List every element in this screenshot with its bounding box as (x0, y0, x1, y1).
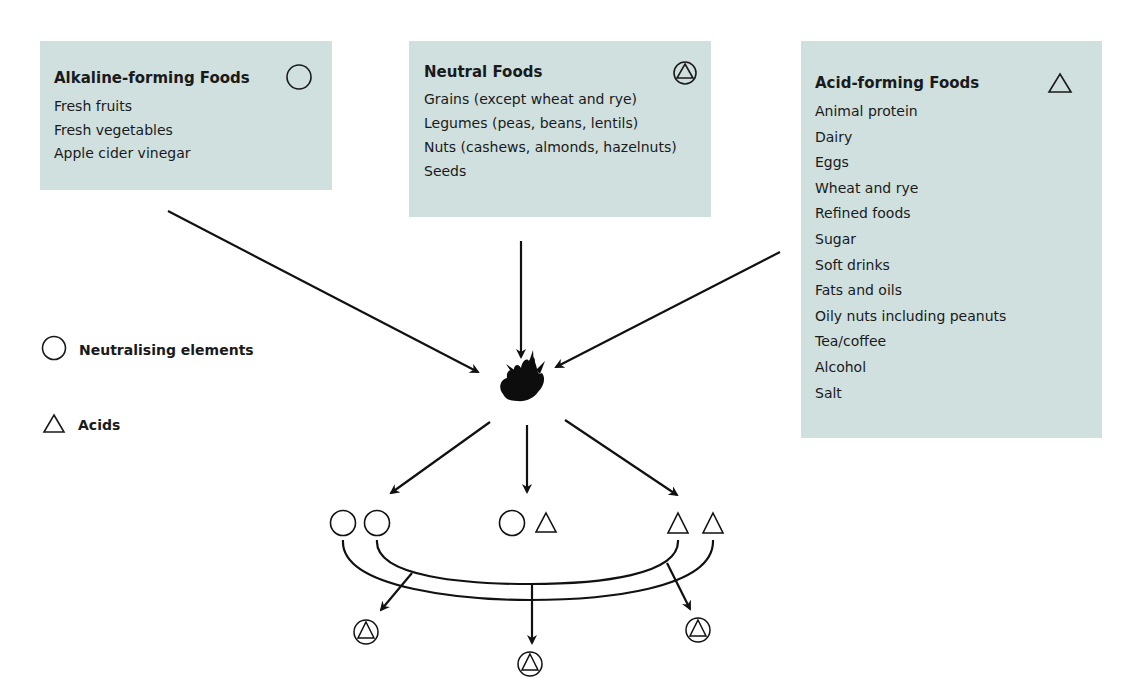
result-middle-circle-triangle-icon (518, 652, 542, 676)
result-left-circle-triangle-icon (354, 620, 378, 644)
flow-diagram (0, 0, 1131, 698)
arrow-fire-to-right (565, 420, 677, 495)
inner-arc (377, 540, 678, 584)
outcome-left-circle-1 (331, 511, 356, 536)
outcome-middle-circle (500, 511, 525, 536)
arrow-to-result-left (381, 573, 412, 610)
outer-arc (343, 540, 713, 600)
arrow-to-result-right (667, 563, 690, 609)
result-right-circle-triangle-icon (686, 618, 710, 642)
arrow-alkaline-to-fire (168, 211, 478, 372)
arrow-acid-to-fire (556, 252, 780, 367)
fire-icon (500, 350, 545, 401)
outcome-right-triangle-2 (703, 513, 723, 533)
outcome-left-circle-2 (365, 511, 390, 536)
outcome-middle-triangle (536, 513, 556, 532)
arrow-fire-to-left (391, 422, 490, 493)
outcome-right-triangle-1 (668, 513, 688, 533)
